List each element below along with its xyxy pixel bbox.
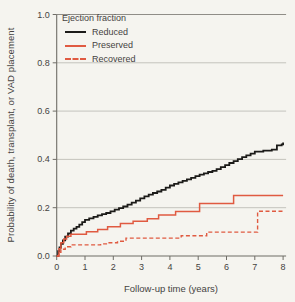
x-tick-label: 6 [224, 262, 229, 272]
x-tick-label: 7 [252, 262, 257, 272]
figure-container: Probability of death, transplant, or VAD… [0, 0, 295, 302]
legend-label-recovered: Recovered [92, 53, 136, 67]
y-tick-label: 0.0 [37, 251, 50, 261]
y-tick-label: 0.6 [37, 106, 50, 116]
legend-label-reduced: Reduced [92, 26, 128, 40]
legend-title: Ejection fraction [62, 12, 136, 26]
legend-label-preserved: Preserved [92, 39, 133, 53]
x-tick-label: 4 [167, 262, 172, 272]
series-preserved [57, 196, 283, 256]
legend-item-reduced: Reduced [62, 26, 136, 40]
x-tick-label: 2 [111, 262, 116, 272]
legend-item-preserved: Preserved [62, 39, 136, 53]
x-tick-label: 5 [196, 262, 201, 272]
y-tick-label: 0.4 [37, 154, 50, 164]
reduced-line-swatch [65, 31, 86, 33]
legend: Ejection fraction Reduced Preserved Reco… [62, 12, 136, 66]
x-axis-title: Follow-up time (years) [57, 283, 285, 294]
x-tick-label: 8 [281, 262, 286, 272]
y-tick-label: 0.2 [37, 203, 50, 213]
recovered-line-swatch [65, 58, 86, 60]
y-axis-title: Probability of death, transplant, or VAD… [5, 28, 16, 243]
y-tick-label: 0.8 [37, 58, 50, 68]
legend-item-recovered: Recovered [62, 53, 136, 67]
x-tick-label: 1 [82, 262, 87, 272]
preserved-line-swatch [65, 45, 86, 47]
x-tick-label: 0 [54, 262, 59, 272]
y-tick-label: 1.0 [37, 10, 50, 20]
x-tick-label: 3 [139, 262, 144, 272]
survival-curve-chart: 0.00.20.40.60.81.0012345678 [0, 0, 295, 302]
